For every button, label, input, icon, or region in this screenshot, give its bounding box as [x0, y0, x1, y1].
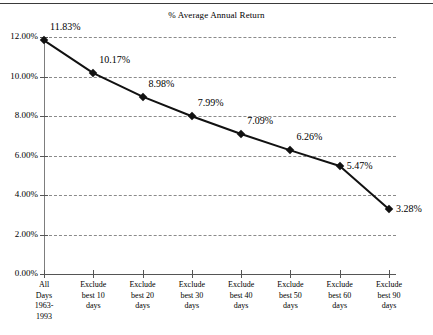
plot-area: 0.00%2.00%4.00%6.00%8.00%10.00%12.00% Al… [0, 0, 433, 335]
data-point-label: 8.98% [149, 78, 175, 89]
data-point-label: 11.83% [50, 21, 80, 32]
data-point-label: 3.28% [396, 203, 422, 214]
data-point-label: 6.26% [296, 131, 322, 142]
data-point-label: 5.47% [347, 160, 373, 171]
data-point-label: 10.17% [99, 54, 130, 65]
chart-figure: % Average Annual Return 0.00%2.00%4.00%6… [0, 0, 433, 335]
data-point-label: 7.99% [198, 97, 224, 108]
data-point-label: 7.09% [247, 115, 273, 126]
